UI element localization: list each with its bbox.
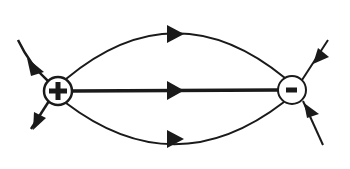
arrow-up-left-icon [304,103,319,118]
arrow-right-icon [167,130,184,148]
arrow-right-icon [167,25,184,43]
arrow-right-icon [167,81,184,100]
field-line-top-arc [66,33,285,79]
